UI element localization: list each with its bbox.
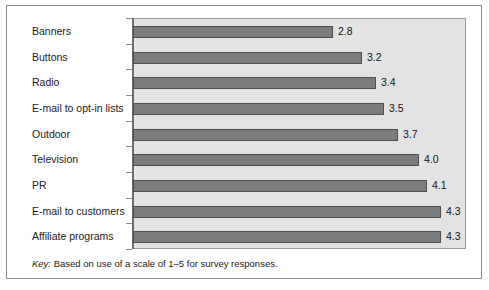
category-label: E-mail to opt-in lists — [32, 102, 128, 114]
axis-tick — [126, 121, 132, 122]
axis-tick — [126, 172, 132, 173]
category-label: Television — [32, 153, 128, 165]
category-label: E-mail to customers — [32, 205, 128, 217]
bar — [133, 77, 376, 89]
axis-tick — [126, 198, 132, 199]
category-label: Buttons — [32, 51, 128, 63]
bar — [133, 180, 427, 192]
bar — [133, 154, 419, 166]
bar-value-label: 4.1 — [432, 179, 447, 191]
category-label: PR — [32, 179, 128, 191]
bar-value-label: 3.5 — [389, 102, 404, 114]
bar-value-label: 3.4 — [381, 76, 396, 88]
bar — [133, 26, 333, 38]
bar-value-label: 4.3 — [446, 205, 461, 217]
category-label: Outdoor — [32, 128, 128, 140]
bar-value-label: 4.3 — [446, 230, 461, 242]
category-label: Radio — [32, 76, 128, 88]
axis-tick — [126, 69, 132, 70]
axis-tick — [126, 44, 132, 45]
category-label: Banners — [32, 25, 128, 37]
axis-tick — [126, 249, 132, 250]
axis-tick — [126, 146, 132, 147]
chart-key-note: Key: Based on use of a scale of 1–5 for … — [32, 258, 278, 269]
bar — [133, 103, 384, 115]
horizontal-bar-chart: BannersButtonsRadioE-mail to opt-in list… — [7, 6, 483, 280]
axis-tick — [126, 18, 132, 19]
bar-value-label: 2.8 — [338, 25, 353, 37]
key-label: Key: — [32, 258, 51, 269]
bar-value-label: 3.2 — [367, 51, 382, 63]
bar — [133, 206, 441, 218]
bar-value-label: 3.7 — [403, 128, 418, 140]
axis-tick — [126, 223, 132, 224]
category-label: Affiliate programs — [32, 230, 128, 242]
bar — [133, 129, 398, 141]
axis-tick — [126, 95, 132, 96]
bar — [133, 231, 441, 243]
bar-value-label: 4.0 — [424, 153, 439, 165]
key-text: Based on use of a scale of 1–5 for surve… — [54, 258, 278, 269]
chart-figure: BannersButtonsRadioE-mail to opt-in list… — [6, 5, 482, 279]
bar — [133, 52, 362, 64]
